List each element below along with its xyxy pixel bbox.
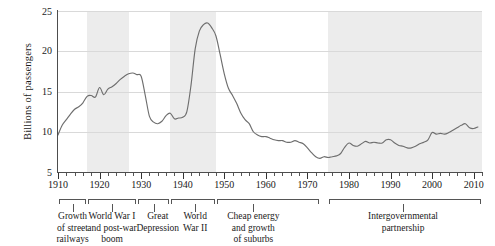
x-axis-minor-tick (274, 173, 275, 176)
x-axis-minor-tick (341, 173, 342, 176)
x-tick-label: 1980 (329, 179, 369, 190)
x-tick-label: 1910 (38, 179, 78, 190)
x-axis-minor-tick (424, 173, 425, 176)
x-axis-minor-tick (332, 173, 333, 176)
period-caption-cheap-energy-and-growth-of-suburbs: Cheap energyand growthof suburbs (218, 211, 288, 246)
x-axis-minor-tick (258, 173, 259, 176)
period-caption-line: of suburbs (218, 234, 288, 246)
x-axis-minor-tick (66, 173, 67, 176)
period-caption-line: War II (169, 223, 221, 235)
x-axis-minor-tick (324, 173, 325, 176)
x-axis-minor-tick (299, 173, 300, 176)
x-tick-label: 2000 (412, 179, 452, 190)
y-axis-line (57, 10, 58, 173)
period-caption-line: World (169, 211, 221, 223)
y-tick-label: 15 (26, 86, 52, 97)
x-axis-minor-tick (316, 173, 317, 176)
period-caption-world-war-ii: WorldWar II (169, 211, 221, 234)
x-axis-minor-tick (249, 173, 250, 176)
x-axis-minor-tick (465, 173, 466, 176)
x-axis-minor-tick (415, 173, 416, 176)
series-canvas (58, 11, 482, 172)
period-caption-line: partnership (349, 223, 457, 235)
x-axis-minor-tick (291, 173, 292, 176)
period-bracket (217, 199, 319, 204)
x-axis-line (57, 172, 483, 173)
period-caption-line: Intergovernmental (349, 211, 457, 223)
x-axis-minor-tick (374, 173, 375, 176)
x-axis-minor-tick (399, 173, 400, 176)
x-axis-minor-tick (216, 173, 217, 176)
series-line-transit-passengers (58, 23, 478, 158)
x-tick-label: 1990 (371, 179, 411, 190)
x-axis-minor-tick (449, 173, 450, 176)
x-axis-minor-tick (382, 173, 383, 176)
x-axis-minor-tick (233, 173, 234, 176)
x-tick-label: 1970 (287, 179, 327, 190)
x-axis-minor-tick (149, 173, 150, 176)
x-tick-label: 1920 (80, 179, 120, 190)
x-tick-label: 1930 (121, 179, 161, 190)
x-tick-label: 1960 (246, 179, 286, 190)
x-axis-minor-tick (457, 173, 458, 176)
x-axis-minor-tick (83, 173, 84, 176)
plot-area (58, 11, 482, 172)
x-axis-minor-tick (208, 173, 209, 176)
x-axis-minor-tick (174, 173, 175, 176)
y-tick-label: 10 (26, 126, 52, 137)
period-caption-intergovernmental-partnership: Intergovernmentalpartnership (349, 211, 457, 234)
period-caption-line: boom (75, 234, 149, 246)
x-axis-minor-tick (166, 173, 167, 176)
y-axis-tick-labels: 25 20 15 10 5 (26, 0, 52, 243)
period-bracket (171, 199, 215, 204)
x-axis-minor-tick (241, 173, 242, 176)
x-axis-minor-tick (357, 173, 358, 176)
x-axis-minor-tick (199, 173, 200, 176)
period-bracket (329, 199, 481, 204)
y-tick-label: 20 (26, 45, 52, 56)
x-tick-label: 1950 (204, 179, 244, 190)
x-axis-minor-tick (482, 173, 483, 176)
period-caption-line: Cheap energy (218, 211, 288, 223)
x-axis-minor-tick (91, 173, 92, 176)
x-axis-minor-tick (366, 173, 367, 176)
period-caption-line: and growth (218, 223, 288, 235)
x-axis-minor-tick (108, 173, 109, 176)
x-axis-minor-tick (407, 173, 408, 176)
x-axis-minor-tick (75, 173, 76, 176)
y-tick-label: 5 (26, 167, 52, 178)
x-axis-minor-tick (158, 173, 159, 176)
x-axis-minor-tick (116, 173, 117, 176)
y-tick-label: 25 (26, 6, 52, 17)
x-tick-label: 1940 (163, 179, 203, 190)
x-axis-minor-tick (191, 173, 192, 176)
x-axis-minor-tick (282, 173, 283, 176)
x-axis-minor-tick (440, 173, 441, 176)
x-axis-minor-tick (133, 173, 134, 176)
x-axis-minor-tick (125, 173, 126, 176)
x-tick-label: 2010 (454, 179, 494, 190)
